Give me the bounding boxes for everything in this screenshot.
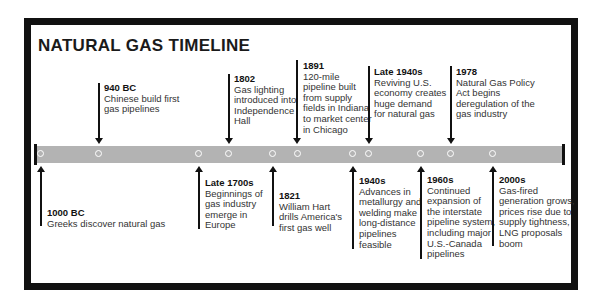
arrow-down-icon	[98, 83, 100, 139]
timeline-end-cap	[562, 144, 565, 165]
event-description: Continued expansion of the interstate pi…	[427, 186, 495, 260]
timeline-marker-1940s	[349, 150, 356, 157]
arrow-up-icon	[492, 171, 494, 246]
event-1891: 1891 120-mile pipeline built from supply…	[303, 61, 372, 135]
event-1978: 1978 Natural Gas Policy Act begins dereg…	[456, 67, 535, 120]
event-description: Beginnings of gas industry emerge in Eur…	[205, 189, 263, 231]
event-description: Advances in metallurgy and welding make …	[359, 187, 421, 251]
event-date: 1940s	[359, 176, 421, 187]
event-description: 120-mile pipeline built from supply fiel…	[303, 72, 372, 136]
event-date: 1891	[303, 61, 372, 72]
arrow-up-icon	[198, 171, 200, 229]
arrow-up-icon	[272, 171, 274, 226]
event-date: 1802	[234, 74, 296, 85]
event-description: Reviving U.S. economy creates huge deman…	[374, 78, 446, 120]
arrow-up-icon	[352, 171, 354, 249]
arrow-down-icon	[450, 66, 452, 139]
event-date: 1978	[456, 67, 535, 78]
event-date: 1960s	[427, 175, 495, 186]
event-1940s: 1940s Advances in metallurgy and welding…	[359, 176, 421, 250]
timeline-marker-2000s	[489, 150, 496, 157]
arrow-down-icon	[368, 66, 370, 139]
event-1000bc: 1000 BC Greeks discover natural gas	[47, 208, 165, 229]
timeline-marker-1000bc	[37, 150, 44, 157]
timeline-marker-1891	[294, 150, 301, 157]
event-date: Late 1700s	[205, 178, 263, 189]
event-description: Gas-fired generation grows, prices rise …	[499, 186, 575, 250]
timeline-marker-1960s	[417, 150, 424, 157]
arrow-up-icon	[420, 171, 422, 259]
event-description: Chinese build first gas pipelines	[104, 94, 180, 115]
event-description: Natural Gas Policy Act begins deregulati…	[456, 78, 535, 120]
timeline-marker-1821	[269, 150, 276, 157]
event-date: 1000 BC	[47, 208, 165, 219]
timeline-marker-1978	[447, 150, 454, 157]
timeline-marker-940bc	[95, 150, 102, 157]
event-940bc: 940 BC Chinese build first gas pipelines	[104, 83, 180, 115]
event-date: 2000s	[499, 175, 575, 186]
event-1802: 1802 Gas lighting introduced into Indepe…	[234, 74, 296, 127]
event-date: 940 BC	[104, 83, 180, 94]
event-late1940s: Late 1940s Reviving U.S. economy creates…	[374, 67, 446, 120]
event-description: William Hart drills America's first gas …	[279, 202, 342, 234]
timeline-marker-late1700s	[195, 150, 202, 157]
arrow-up-icon	[40, 171, 42, 226]
arrow-down-icon	[228, 74, 230, 139]
event-date: 1821	[279, 191, 342, 202]
page-title: NATURAL GAS TIMELINE	[38, 36, 250, 56]
timeline-marker-1802	[225, 150, 232, 157]
event-date: Late 1940s	[374, 67, 446, 78]
arrow-down-icon	[296, 60, 298, 139]
timeline-marker-late1940s	[365, 150, 372, 157]
event-2000s: 2000s Gas-fired generation grows, prices…	[499, 175, 575, 249]
event-description: Gas lighting introduced into Independenc…	[234, 85, 296, 127]
event-1821: 1821 William Hart drills America's first…	[279, 191, 342, 233]
event-description: Greeks discover natural gas	[47, 219, 165, 230]
event-late1700s: Late 1700s Beginnings of gas industry em…	[205, 178, 263, 231]
event-1960s: 1960s Continued expansion of the interst…	[427, 175, 495, 260]
